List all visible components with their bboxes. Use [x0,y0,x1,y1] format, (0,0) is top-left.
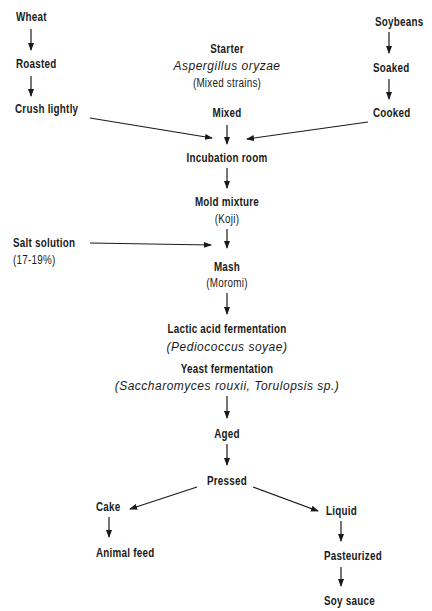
node-cake: Cake [96,500,121,514]
node-salt-concentration: (17-19%) [13,253,55,267]
node-pediococcus: (Pediococcus soyae) [167,340,288,354]
node-yeast-fermentation: Yeast fermentation [181,362,273,376]
node-koji: (Koji) [215,212,239,226]
node-soybeans: Soybeans [375,15,423,29]
node-crush-lightly: Crush lightly [15,102,78,116]
node-wheat: Wheat [16,10,47,24]
node-pasteurized: Pasteurized [324,549,382,563]
flow-arrows [0,0,432,611]
node-lactic-acid-fermentation: Lactic acid fermentation [167,322,286,336]
node-cooked: Cooked [373,106,411,120]
node-aged: Aged [214,427,240,441]
node-starter-organism: Aspergillus oryzae [173,59,280,73]
node-liquid: Liquid [326,504,357,518]
node-salt-solution: Salt solution [13,236,75,250]
node-incubation-room: Incubation room [187,151,268,165]
node-starter: Starter [210,42,243,56]
node-moromi: (Moromi) [206,276,247,290]
node-yeast-organisms: (Saccharomyces rouxii, Torulopsis sp.) [115,379,340,393]
node-animal-feed: Animal feed [96,546,154,560]
node-mold-mixture: Mold mixture [195,195,259,209]
node-roasted: Roasted [16,57,57,71]
node-soy-sauce: Soy sauce [324,594,375,608]
node-soaked: Soaked [373,61,409,75]
node-pressed: Pressed [207,474,247,488]
node-starter-note: (Mixed strains) [193,76,261,90]
node-mixed: Mixed [212,106,241,120]
node-mash: Mash [214,260,240,274]
